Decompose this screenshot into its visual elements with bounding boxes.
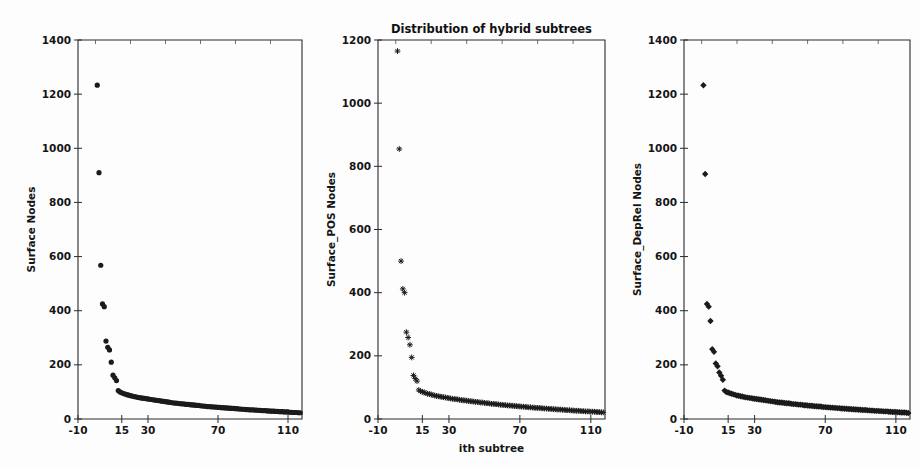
data-series [95,83,303,416]
y-tick-label: 1000 [648,142,677,154]
x-tick-label: 30 [747,424,762,436]
data-point [114,378,119,383]
data-point [96,170,101,175]
y-tick-label: 600 [349,223,371,235]
y-tick-label: 1000 [42,142,71,154]
data-point [102,304,107,309]
y-tick-label: 1000 [342,97,371,109]
data-point [402,290,408,296]
x-tick-label: 70 [513,424,528,436]
panel-surface-pos-nodes: 020040060080010001200-10153070110Surface… [305,0,615,468]
data-point [395,48,401,54]
y-tick-label: 1200 [342,34,371,46]
x-axis-label: ith subtree [459,442,524,454]
x-tick-label: -10 [69,424,88,436]
data-point [95,83,100,88]
data-point [396,146,402,152]
x-tick-label: 15 [721,424,736,436]
data-point [407,342,413,348]
data-point [98,263,103,268]
y-tick-label: 0 [364,413,371,425]
y-tick-label: 600 [655,250,677,262]
chart-title: Distribution of hybrid subtrees [391,22,592,36]
data-series [700,82,911,416]
data-point [403,329,409,335]
panel-surface-deprel-nodes: 0200400600800100012001400-10153070110Sur… [612,0,920,468]
data-point [409,355,415,361]
x-tick-label: 15 [415,424,430,436]
y-tick-label: 0 [64,413,71,425]
data-point [405,335,411,341]
y-tick-label: 400 [49,304,71,316]
x-tick-label: 70 [211,424,226,436]
data-point [103,338,108,343]
y-tick-label: 400 [655,304,677,316]
y-tick-label: 800 [655,196,677,208]
data-point [702,171,708,177]
data-point [414,378,420,384]
x-tick-label: 70 [818,424,833,436]
y-tick-label: 600 [49,250,71,262]
y-tick-label: 800 [49,196,71,208]
x-tick-label: 30 [141,424,156,436]
data-point [398,258,404,264]
plot-area-0: 0200400600800100012001400-10153070110Sur… [0,0,310,468]
x-tick-label: 110 [277,424,299,436]
y-tick-label: 1400 [648,34,677,46]
y-tick-label: 800 [349,160,371,172]
y-axis-label: Surface Nodes [25,187,37,273]
y-tick-label: 200 [49,358,71,370]
y-tick-label: 200 [655,358,677,370]
y-tick-label: 1200 [42,88,71,100]
data-point [298,410,303,415]
data-point [109,360,114,365]
axes-frame [684,40,910,419]
y-tick-label: 1200 [648,88,677,100]
y-tick-label: 0 [670,413,677,425]
x-tick-label: -10 [675,424,694,436]
x-tick-label: -10 [369,424,388,436]
x-tick-label: 110 [885,424,907,436]
y-tick-label: 1400 [42,34,71,46]
plot-area-2: 0200400600800100012001400-10153070110Sur… [612,0,920,468]
y-axis-label: Surface_POS Nodes [325,172,338,287]
data-series [395,48,607,415]
axes-frame [378,40,605,419]
plot-area-1: 020040060080010001200-10153070110Surface… [305,0,615,468]
y-tick-label: 200 [349,349,371,361]
x-tick-label: 15 [114,424,129,436]
x-tick-label: 30 [442,424,457,436]
data-point [707,318,713,324]
panel-surface-nodes: 0200400600800100012001400-10153070110Sur… [0,0,310,468]
data-point [600,409,606,415]
x-tick-label: 110 [580,424,602,436]
data-point [700,82,706,88]
figure-canvas: 0200400600800100012001400-10153070110Sur… [0,0,920,468]
y-axis-label: Surface_DepRel Nodes [631,163,644,296]
data-point [107,347,112,352]
y-tick-label: 400 [349,286,371,298]
